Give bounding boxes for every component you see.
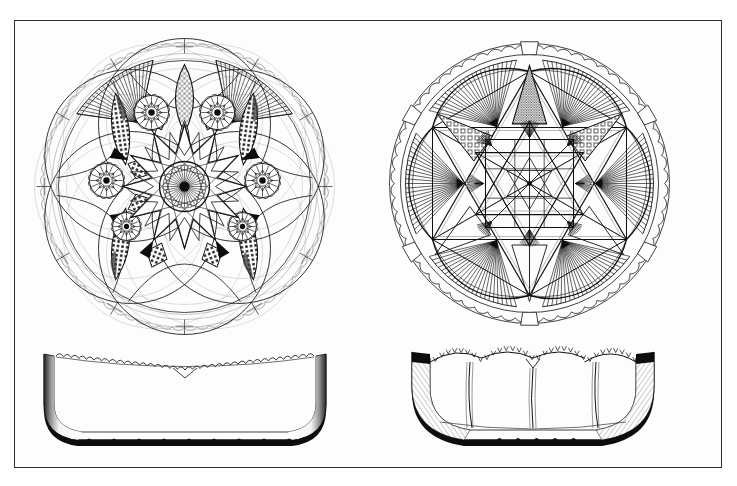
right-plan-svg <box>382 36 677 331</box>
rim-caps <box>44 354 326 356</box>
bowl-foot <box>412 386 654 446</box>
sawtooth-rim <box>430 346 637 368</box>
figure-right-profile-view <box>404 344 662 456</box>
right-profile-svg <box>404 344 662 456</box>
rim-corner-right <box>636 352 654 364</box>
sawtooth-rim <box>56 354 314 378</box>
left-profile-svg <box>34 344 336 456</box>
figure-left-plan-view <box>36 38 333 335</box>
center-hub <box>160 162 210 212</box>
wall-hatch-right <box>596 352 654 440</box>
left-plan-svg <box>36 38 333 335</box>
figure-right-plan-view <box>382 36 677 331</box>
wall-hatch-left <box>412 352 470 440</box>
rim-corner-left <box>412 352 430 364</box>
bowl-inner-line <box>54 356 316 432</box>
illustration-sheet <box>0 0 737 486</box>
figure-left-profile-view <box>34 344 336 456</box>
interior-panels <box>440 362 626 429</box>
bowl-outline <box>44 354 326 440</box>
